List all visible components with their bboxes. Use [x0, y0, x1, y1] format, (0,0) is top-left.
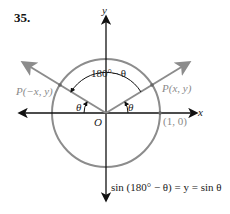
- unit-point-label: (1, 0): [163, 115, 187, 128]
- unit-circle-diagram: 35. y x O P(x, y) P(−x, y) (1, 0) 180°− …: [0, 0, 230, 214]
- theta-right-label: θ: [128, 101, 134, 113]
- theta-left-arc: [84, 102, 87, 113]
- identity-equation: sin (180° − θ) = y = sin θ: [111, 181, 222, 194]
- point-p-right: [150, 83, 154, 87]
- point-p-left-label: P(−x, y): [15, 85, 53, 98]
- point-unit: [158, 111, 162, 115]
- diagram-canvas: 35. y x O P(x, y) P(−x, y) (1, 0) 180°− …: [0, 0, 230, 214]
- x-axis-label: x: [197, 106, 203, 118]
- supplement-angle-label: 180°− θ: [91, 67, 126, 79]
- y-axis-label: y: [101, 4, 107, 16]
- point-p-left: [58, 83, 62, 87]
- point-p-right-label: P(x, y): [161, 82, 192, 95]
- theta-left-label: θ: [76, 101, 82, 113]
- problem-number: 35.: [14, 10, 30, 25]
- origin-label: O: [94, 116, 102, 128]
